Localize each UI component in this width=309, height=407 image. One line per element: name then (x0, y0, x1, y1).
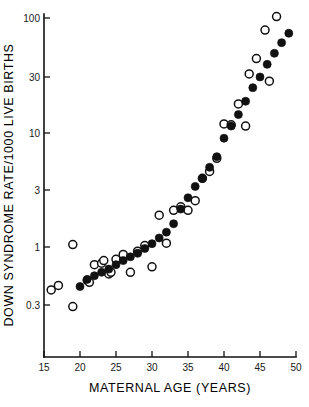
x-axis-title: MATERNAL AGE (YEARS) (89, 381, 251, 395)
x-tick-label: 45 (254, 362, 266, 373)
data-point (76, 283, 84, 291)
y-tick-label: 100 (23, 13, 40, 24)
data-point (126, 253, 134, 261)
data-point (184, 206, 192, 214)
data-point (213, 153, 221, 161)
x-tick-label: 25 (110, 362, 122, 373)
data-point (112, 261, 120, 269)
data-point (155, 211, 163, 219)
data-point (100, 257, 108, 265)
data-point (252, 55, 260, 63)
data-point (191, 182, 199, 190)
data-point (162, 239, 170, 247)
data-point (256, 73, 264, 81)
scatter-plot: 100 30 10 3 1 0.3 15 20 25 30 35 40 45 (0, 0, 309, 407)
data-point (148, 263, 156, 271)
data-point (227, 122, 235, 130)
x-tick-label: 50 (290, 362, 302, 373)
data-point (83, 275, 91, 283)
data-point (261, 26, 269, 34)
data-point (265, 77, 273, 85)
data-point (242, 122, 250, 130)
data-point (234, 100, 242, 108)
data-point (206, 163, 214, 171)
data-point (242, 97, 250, 105)
data-point (141, 245, 149, 253)
data-point (119, 257, 127, 265)
data-point (184, 194, 192, 202)
data-point (105, 265, 113, 273)
data-point (220, 134, 228, 142)
plot-background (0, 0, 309, 407)
data-point (285, 29, 293, 37)
data-point (170, 220, 178, 228)
y-tick-label: 0.3 (26, 300, 40, 311)
data-point (155, 234, 163, 242)
data-point (270, 49, 278, 57)
data-point (98, 268, 106, 276)
data-point (263, 60, 271, 68)
data-point (162, 228, 170, 236)
data-point (191, 197, 199, 205)
data-point (148, 240, 156, 248)
data-point (278, 39, 286, 47)
data-point (54, 281, 62, 289)
data-point (245, 70, 253, 78)
y-tick-label: 30 (29, 72, 41, 83)
x-tick-label: 20 (74, 362, 86, 373)
data-point (177, 205, 185, 213)
data-point (273, 13, 281, 21)
data-point (134, 249, 142, 257)
y-axis-title: DOWN SYNDROME RATE/1000 LIVE BIRTHS (2, 43, 16, 326)
data-point (234, 111, 242, 119)
data-point (69, 303, 77, 311)
data-point (249, 84, 257, 92)
figure-container: 100 30 10 3 1 0.3 15 20 25 30 35 40 45 (0, 0, 309, 407)
x-tick-label: 15 (38, 362, 50, 373)
data-point (126, 268, 134, 276)
y-tick-label: 10 (29, 128, 41, 139)
data-point (69, 241, 77, 249)
data-point (198, 174, 206, 182)
y-tick-label: 1 (34, 242, 40, 253)
y-tick-label: 3 (34, 185, 40, 196)
x-tick-label: 35 (182, 362, 194, 373)
x-tick-label: 40 (218, 362, 230, 373)
data-point (90, 272, 98, 280)
x-tick-label: 30 (146, 362, 158, 373)
